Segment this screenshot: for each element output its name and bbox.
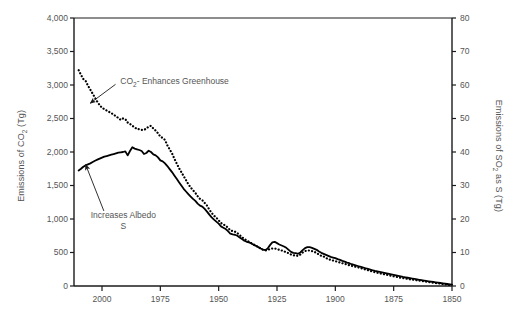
y-tick-label-right: 70 [460, 46, 484, 56]
y-axis-right-title-text: Emissions of SO [494, 100, 504, 168]
y-tick-label-left: 500 [28, 247, 68, 257]
y-tick-label-right: 40 [460, 147, 484, 157]
y-tick-label-left: 1,000 [28, 214, 68, 224]
series-co2 [79, 70, 452, 285]
annotation-arrow-s [86, 165, 104, 211]
y-axis-right-title-units: as S (Tg) [494, 172, 504, 213]
y-tick-label-right: 30 [460, 180, 484, 190]
y-axis-left-title-text: Emissions of CO [16, 133, 26, 202]
annotation-s-line2: Increases Albedo [66, 210, 180, 220]
y-tick-label-right: 50 [460, 113, 484, 123]
x-tick-label: 1850 [432, 294, 472, 304]
y-tick-label-right: 20 [460, 214, 484, 224]
annotation-arrow-co2 [90, 84, 115, 103]
annotation-co2-greenhouse: CO2- Enhances Greenhouse [120, 76, 229, 88]
y-tick-label-left: 4,000 [28, 13, 68, 23]
x-tick-label: 1950 [199, 294, 239, 304]
x-tick-label: 1875 [374, 294, 414, 304]
y-tick-label-left: 2,000 [28, 147, 68, 157]
y-tick-label-left: 1,500 [28, 180, 68, 190]
y-axis-right-title: Emissions of SO2 as S (Tg) [492, 76, 504, 236]
x-tick-label: 1925 [257, 294, 297, 304]
chart-canvas [0, 0, 512, 316]
annotation-co2-suffix: - Enhances Greenhouse [137, 76, 229, 86]
y-axis-left-title-units: (Tg) [16, 110, 26, 130]
annotation-co2-text: CO [120, 76, 133, 86]
y-axis-left-title-subscript: 2 [21, 130, 28, 134]
x-tick-label: 1900 [315, 294, 355, 304]
y-axis-left-title: Emissions of CO2 (Tg) [16, 76, 28, 236]
y-tick-label-left: 2,500 [28, 113, 68, 123]
emissions-chart-figure: Emissions of CO2 (Tg) Emissions of SO2 a… [0, 0, 512, 316]
x-tick-label: 1975 [140, 294, 180, 304]
y-tick-label-right: 10 [460, 247, 484, 257]
y-tick-label-left: 3,000 [28, 80, 68, 90]
y-tick-label-left: 0 [28, 281, 68, 291]
y-tick-label-right: 60 [460, 80, 484, 90]
x-tick-label: 2000 [82, 294, 122, 304]
y-tick-label-right: 80 [460, 13, 484, 23]
y-tick-label-right: 0 [460, 281, 484, 291]
y-tick-label-left: 3,500 [28, 46, 68, 56]
annotation-s-line1: S [100, 221, 146, 231]
